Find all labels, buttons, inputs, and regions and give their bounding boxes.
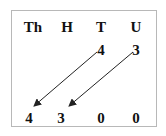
- arrow-units-to-hundreds: [69, 52, 133, 106]
- arrows-layer: [0, 0, 166, 136]
- arrow-tens-to-thousands: [34, 52, 97, 106]
